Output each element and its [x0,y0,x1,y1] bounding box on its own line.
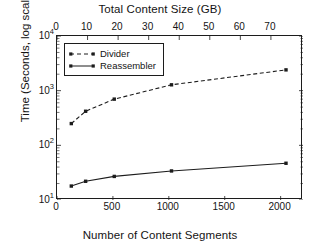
data-point-divider [84,110,87,113]
top-tick-label: 30 [142,21,153,32]
data-point-reassembler [70,184,73,187]
series-line-reassembler [71,163,286,186]
top-tick-label: 0 [53,21,59,32]
legend-label-divider: Divider [100,48,130,59]
y-tick-label: 102 [39,139,54,150]
legend-swatch-dashed-line-icon [69,49,95,59]
data-point-divider [284,68,287,71]
top-tick-label: 50 [203,21,214,32]
legend-swatch-solid-line-icon [69,61,95,71]
legend-label-reassembler: Reassembler [100,60,156,71]
y-tick-label: 104 [39,30,54,41]
data-point-reassembler [113,175,116,178]
y-tick-label: 103 [39,84,54,95]
data-point-divider [170,83,173,86]
legend-item-reassembler[interactable]: Reassembler [69,60,156,71]
bottom-tick-label: 0 [53,201,59,212]
y-axis-tick-labels: 101102103104 [24,0,54,244]
bottom-tick-label: 1000 [157,201,179,212]
bottom-tick-label: 1500 [213,201,235,212]
data-point-reassembler [84,180,87,183]
data-point-reassembler [284,162,287,165]
chart-figure: Total Content Size (GB) Time (Seconds, l… [0,0,320,244]
data-point-divider [70,122,73,125]
top-tick-label: 60 [234,21,245,32]
bottom-tick-label: 2000 [269,201,291,212]
top-tick-label: 10 [81,21,92,32]
data-point-reassembler [170,169,173,172]
top-tick-label: 40 [173,21,184,32]
top-tick-label: 70 [264,21,275,32]
legend-item-divider[interactable]: Divider [69,48,156,59]
top-tick-label: 20 [112,21,123,32]
data-point-divider [113,97,116,100]
plot-area: Divider Reassembler [56,35,302,199]
legend: Divider Reassembler [64,43,164,76]
series-line-divider [71,70,286,124]
y-tick-label: 101 [39,194,54,205]
bottom-tick-label: 500 [104,201,121,212]
